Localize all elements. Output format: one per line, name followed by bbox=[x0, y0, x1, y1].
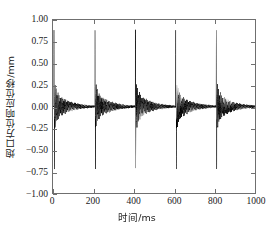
y-tick-label: 0.25 bbox=[0, 80, 48, 90]
x-tick-label: 600 bbox=[154, 196, 194, 206]
y-tick-mark-right bbox=[251, 173, 255, 174]
y-tick-mark bbox=[53, 194, 57, 195]
y-tick-mark-right bbox=[251, 42, 255, 43]
y-tick-label: 0.50 bbox=[0, 58, 48, 68]
x-tick-label: 1000 bbox=[236, 196, 274, 206]
y-tick-mark bbox=[53, 42, 57, 43]
y-tick-mark-right bbox=[251, 64, 255, 65]
y-tick-mark bbox=[53, 173, 57, 174]
y-tick-label: 0.00 bbox=[0, 102, 48, 112]
y-tick-mark-right bbox=[251, 86, 255, 87]
y-tick-label: −0.25 bbox=[0, 123, 48, 133]
x-tick-mark bbox=[53, 189, 54, 193]
x-tick-label: 800 bbox=[195, 196, 235, 206]
y-tick-mark-right bbox=[251, 129, 255, 130]
y-tick-mark bbox=[53, 20, 57, 21]
x-tick-mark-top bbox=[94, 20, 95, 24]
x-tick-mark bbox=[94, 189, 95, 193]
plot-area bbox=[52, 19, 256, 194]
y-tick-label: −0.50 bbox=[0, 145, 48, 155]
y-tick-mark bbox=[53, 129, 57, 130]
x-tick-mark-top bbox=[215, 20, 216, 24]
y-tick-mark bbox=[53, 64, 57, 65]
y-tick-mark bbox=[53, 108, 57, 109]
y-tick-label: 0.75 bbox=[0, 36, 48, 46]
y-tick-mark bbox=[53, 151, 57, 152]
x-tick-mark bbox=[255, 189, 256, 193]
x-tick-mark bbox=[134, 189, 135, 193]
x-tick-mark bbox=[175, 189, 176, 193]
y-tick-mark-right bbox=[251, 108, 255, 109]
y-tick-label: 1.00 bbox=[0, 14, 48, 24]
x-tick-mark-top bbox=[175, 20, 176, 24]
x-axis-title: 时间/ms bbox=[0, 210, 274, 224]
x-tick-label: 0 bbox=[32, 196, 72, 206]
waveform-plot bbox=[53, 20, 255, 193]
x-tick-mark bbox=[215, 189, 216, 193]
x-tick-label: 200 bbox=[73, 196, 113, 206]
y-tick-mark-right bbox=[251, 151, 255, 152]
chart-figure: 炮口方位响应位移/mm 1.00 0.75 0.50 0.25 0.00 −0.… bbox=[0, 0, 274, 232]
x-tick-label: 400 bbox=[114, 196, 154, 206]
y-tick-label: −0.75 bbox=[0, 167, 48, 177]
y-tick-mark bbox=[53, 86, 57, 87]
x-tick-mark-top bbox=[134, 20, 135, 24]
